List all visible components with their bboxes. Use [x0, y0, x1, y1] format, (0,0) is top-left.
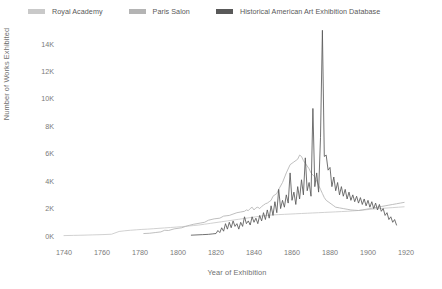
x-tick-label: 1740: [56, 248, 72, 257]
series-line: [191, 30, 396, 235]
y-tick-label: 6K: [45, 149, 54, 158]
y-tick-label: 14K: [41, 40, 54, 49]
y-tick-label: 4K: [45, 177, 54, 186]
x-tick-label: 1780: [132, 248, 148, 257]
plot-svg: 0K2K4K6K8K10K12K14K 17401760178018001820…: [0, 0, 442, 289]
x-tick-label: 1900: [360, 248, 376, 257]
data-series-layer: [64, 30, 404, 235]
x-tick-label: 1920: [398, 248, 414, 257]
x-tick-label: 1800: [170, 248, 186, 257]
x-tick-label: 1760: [94, 248, 110, 257]
y-axis-title: Number of Works Exhibited: [2, 24, 11, 124]
series-line: [144, 155, 404, 233]
y-tick-label: 2K: [45, 204, 54, 213]
y-tick-label: 0K: [45, 232, 54, 241]
x-tick-label: 1860: [284, 248, 300, 257]
y-tick-label: 12K: [41, 67, 54, 76]
x-axis-ticks: 1740176017801800182018401860188019001920: [56, 248, 414, 257]
series-line: [64, 207, 404, 236]
y-axis-ticks: 0K2K4K6K8K10K12K14K: [41, 40, 54, 241]
x-tick-label: 1820: [208, 248, 224, 257]
y-tick-label: 8K: [45, 122, 54, 131]
x-tick-label: 1840: [246, 248, 262, 257]
chart-figure: Royal Academy Paris Salon Historical Ame…: [0, 0, 442, 289]
plot-area: 0K2K4K6K8K10K12K14K 17401760178018001820…: [0, 0, 442, 289]
x-tick-label: 1880: [322, 248, 338, 257]
x-axis-title: Year of Exhibition: [0, 268, 442, 277]
y-tick-label: 10K: [41, 94, 54, 103]
